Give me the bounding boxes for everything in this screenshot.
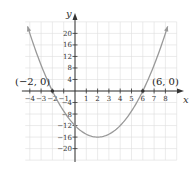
- y-axis-label: y: [65, 8, 72, 19]
- svg-text:4: 4: [118, 95, 123, 103]
- x-axis-label: x: [183, 94, 189, 105]
- svg-text:−16: −16: [57, 134, 72, 142]
- svg-text:8: 8: [163, 95, 167, 103]
- svg-text:−8: −8: [62, 111, 72, 119]
- svg-text:7: 7: [152, 95, 156, 103]
- svg-text:2: 2: [95, 95, 99, 103]
- svg-text:4: 4: [68, 76, 73, 84]
- svg-text:16: 16: [63, 41, 72, 49]
- point-label-left: (−2, 0): [15, 76, 50, 87]
- svg-text:−4: −4: [25, 95, 36, 103]
- svg-text:−3: −3: [36, 95, 46, 103]
- svg-text:12: 12: [63, 53, 72, 61]
- parabola-chart: −4−3−2−11234567820161284−4−8−12−16−20 x …: [0, 0, 189, 174]
- svg-text:−20: −20: [57, 145, 72, 153]
- svg-text:6: 6: [141, 95, 146, 103]
- svg-text:8: 8: [68, 64, 72, 72]
- svg-text:20: 20: [63, 30, 72, 38]
- svg-text:3: 3: [107, 95, 111, 103]
- svg-text:−12: −12: [57, 122, 72, 130]
- point-label-right: (6, 0): [152, 76, 179, 87]
- svg-text:−4: −4: [62, 99, 73, 107]
- svg-text:1: 1: [84, 95, 88, 103]
- axes: [22, 13, 184, 162]
- svg-text:5: 5: [129, 95, 133, 103]
